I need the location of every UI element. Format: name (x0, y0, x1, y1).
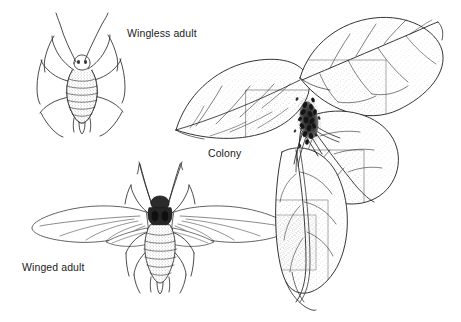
label-winged-adult: Winged adult (22, 262, 85, 273)
aphid-plate-drawing (0, 0, 461, 322)
aphid-colony-on-plant (170, 12, 452, 310)
winged-adult-aphid (32, 162, 288, 294)
label-wingless-adult: Wingless adult (127, 28, 197, 39)
label-colony: Colony (208, 148, 241, 159)
illustration-page: Wingless adult Colony Winged adult (0, 0, 461, 322)
wingless-adult-aphid (37, 13, 125, 137)
